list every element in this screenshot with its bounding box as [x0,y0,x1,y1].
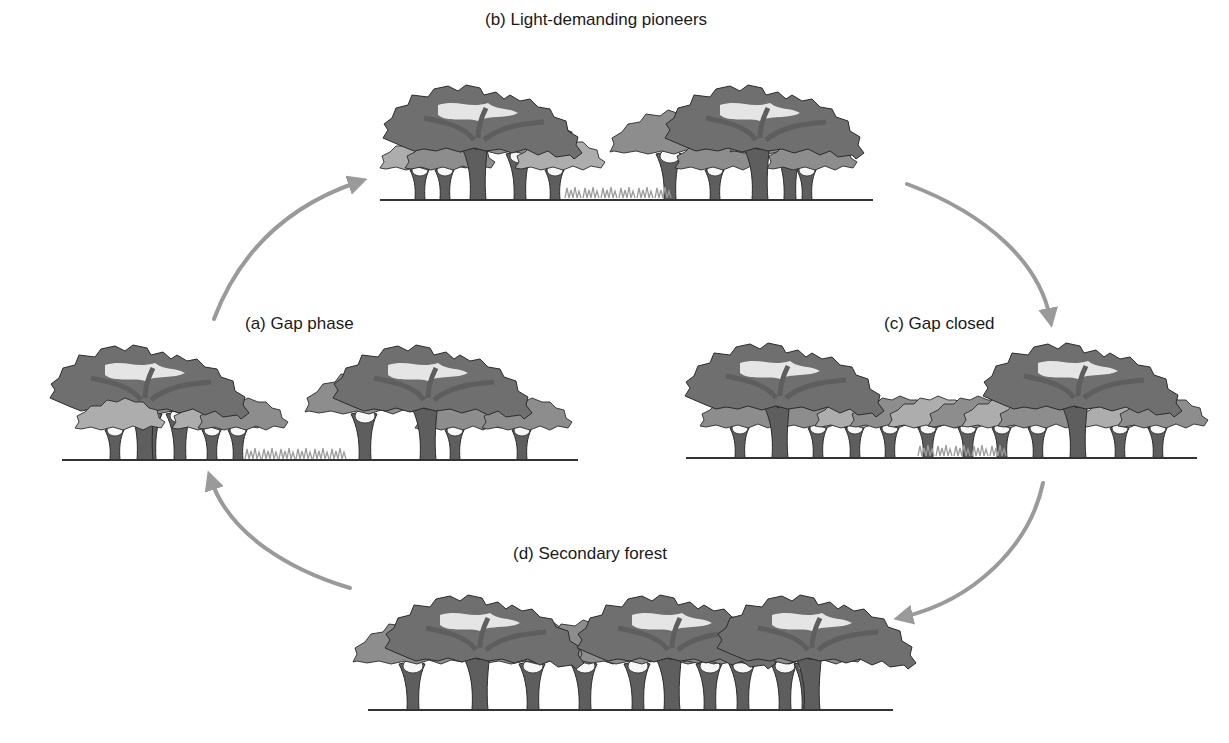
arrow-a-to-b [214,182,358,319]
arrow-b-to-c [907,184,1050,318]
forest-cycle-diagram [0,0,1229,743]
arrow-c-to-d [903,483,1043,617]
stage-d-illustration [353,595,916,710]
stage-c-illustration [685,343,1208,458]
stage-b-illustration [380,85,873,200]
stage-a-illustration [50,345,578,460]
grass-tufts [565,187,671,198]
arrow-d-to-a [211,480,350,588]
grass-tufts [245,448,346,459]
